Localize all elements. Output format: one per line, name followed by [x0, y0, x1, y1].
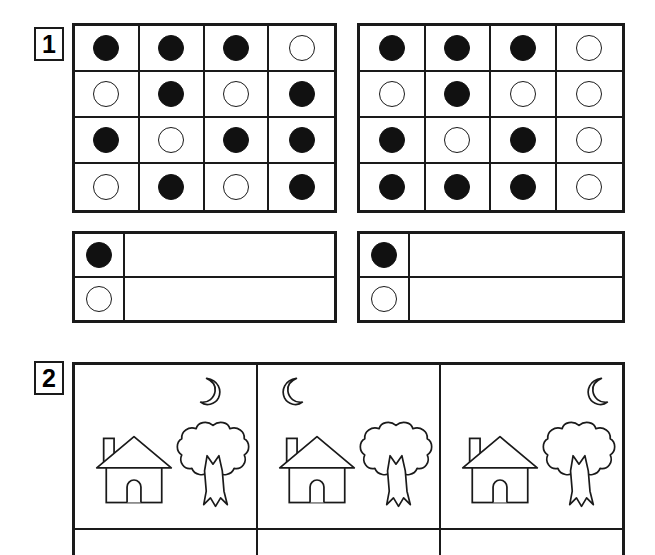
- dot-cell[interactable]: [75, 72, 140, 118]
- picture-panel-row: [75, 365, 622, 530]
- picture-panel-1[interactable]: [75, 365, 258, 528]
- dot-cell[interactable]: [360, 118, 426, 164]
- filled-circle-icon: [510, 174, 536, 200]
- house-icon: [278, 428, 356, 506]
- moon-icon: [276, 375, 310, 409]
- empty-circle-icon: [576, 127, 602, 153]
- filled-circle-icon: [379, 174, 405, 200]
- empty-circle-icon: [379, 81, 405, 107]
- dot-cell[interactable]: [140, 26, 205, 72]
- empty-circle-icon: [576, 81, 602, 107]
- dot-cell[interactable]: [269, 72, 334, 118]
- moon-icon: [581, 375, 615, 409]
- dot-cell[interactable]: [140, 164, 205, 210]
- picture-answer-row: [75, 530, 622, 555]
- dot-cell[interactable]: [426, 72, 492, 118]
- panel-2-answer-cell[interactable]: [258, 530, 441, 555]
- filled-circle-icon: [223, 35, 249, 61]
- picture-panels-frame: [72, 362, 625, 555]
- tally-answer-field[interactable]: [125, 278, 334, 320]
- dot-cell[interactable]: [557, 164, 623, 210]
- filled-circle-icon: [289, 127, 315, 153]
- filled-circle-icon: [158, 174, 184, 200]
- picture-panel-2[interactable]: [258, 365, 441, 528]
- empty-circle-icon: [223, 174, 249, 200]
- dot-cell[interactable]: [269, 164, 334, 210]
- empty-circle-icon: [93, 81, 119, 107]
- dot-cell[interactable]: [491, 26, 557, 72]
- dot-cell[interactable]: [360, 164, 426, 210]
- dot-cell[interactable]: [491, 118, 557, 164]
- tree-icon: [175, 417, 251, 513]
- dot-cell[interactable]: [269, 26, 334, 72]
- filled-circle-icon: [223, 127, 249, 153]
- tally-box-right: [357, 231, 625, 323]
- tally-key-filled: [75, 234, 125, 276]
- dot-cell[interactable]: [140, 118, 205, 164]
- dot-cell[interactable]: [491, 72, 557, 118]
- tree-icon: [541, 417, 617, 513]
- dot-cell[interactable]: [205, 164, 270, 210]
- dot-cell[interactable]: [426, 118, 492, 164]
- filled-circle-icon: [379, 35, 405, 61]
- tally-row: [75, 278, 334, 320]
- dot-cell[interactable]: [75, 26, 140, 72]
- filled-circle-icon: [158, 35, 184, 61]
- dot-cell[interactable]: [557, 26, 623, 72]
- empty-circle-icon: [371, 286, 397, 312]
- empty-circle-icon: [444, 127, 470, 153]
- tally-answer-field[interactable]: [410, 278, 622, 320]
- tally-row: [360, 278, 622, 320]
- dot-cell[interactable]: [205, 26, 270, 72]
- filled-circle-icon: [444, 81, 470, 107]
- filled-circle-icon: [289, 174, 315, 200]
- dot-cell[interactable]: [205, 72, 270, 118]
- empty-circle-icon: [289, 35, 315, 61]
- tally-key-empty: [360, 278, 410, 320]
- tally-answer-field[interactable]: [410, 234, 622, 276]
- dot-cell[interactable]: [75, 118, 140, 164]
- exercise-number-badge-2: 2: [34, 361, 64, 395]
- dot-cell[interactable]: [557, 72, 623, 118]
- house-icon: [461, 428, 539, 506]
- panel-1-answer-cell[interactable]: [75, 530, 258, 555]
- filled-circle-icon: [86, 242, 112, 268]
- empty-circle-icon: [158, 127, 184, 153]
- dot-cell[interactable]: [491, 164, 557, 210]
- panel-3-answer-cell[interactable]: [441, 530, 622, 555]
- exercise-number-badge-1: 1: [34, 27, 64, 61]
- filled-circle-icon: [510, 127, 536, 153]
- dot-cell[interactable]: [75, 164, 140, 210]
- empty-circle-icon: [576, 174, 602, 200]
- tally-key-filled: [360, 234, 410, 276]
- filled-circle-icon: [444, 35, 470, 61]
- tally-box-left: [72, 231, 337, 323]
- dot-cell[interactable]: [360, 72, 426, 118]
- dot-cell[interactable]: [205, 118, 270, 164]
- tally-row: [360, 234, 622, 278]
- house-icon: [95, 428, 173, 506]
- dot-cell[interactable]: [140, 72, 205, 118]
- empty-circle-icon: [86, 286, 112, 312]
- empty-circle-icon: [576, 35, 602, 61]
- picture-panel-3[interactable]: [441, 365, 622, 528]
- filled-circle-icon: [510, 35, 536, 61]
- filled-circle-icon: [289, 81, 315, 107]
- dot-cell[interactable]: [360, 26, 426, 72]
- empty-circle-icon: [223, 81, 249, 107]
- dot-grid-left: [72, 23, 337, 213]
- tally-answer-field[interactable]: [125, 234, 334, 276]
- empty-circle-icon: [510, 81, 536, 107]
- dot-cell[interactable]: [557, 118, 623, 164]
- tally-key-empty: [75, 278, 125, 320]
- filled-circle-icon: [444, 174, 470, 200]
- dot-cell[interactable]: [426, 164, 492, 210]
- dot-cell[interactable]: [426, 26, 492, 72]
- tree-icon: [358, 417, 434, 513]
- filled-circle-icon: [93, 35, 119, 61]
- dot-grid-right: [357, 23, 625, 213]
- dot-cell[interactable]: [269, 118, 334, 164]
- tally-row: [75, 234, 334, 278]
- moon-icon: [193, 375, 227, 409]
- empty-circle-icon: [93, 174, 119, 200]
